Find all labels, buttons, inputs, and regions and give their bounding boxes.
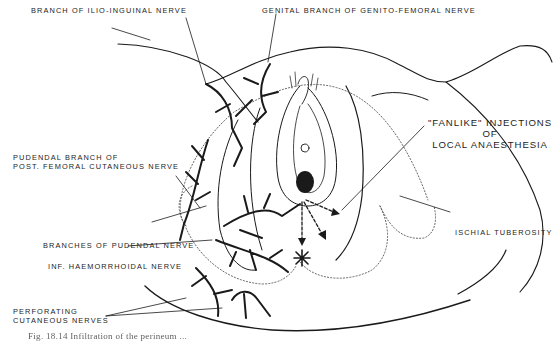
label-fanlike-injections-line1: "FANLIKE" INJECTIONS (422, 117, 558, 128)
perianal-injection-star (294, 250, 310, 266)
figure-caption: Fig. 18.14 Infiltration of the perineum … (28, 331, 187, 341)
label-branches-pudendal-nerve: BRANCHES OF PUDENDAL NERVE (43, 242, 194, 251)
label-inf-haemorrhoidal-nerve: INF. HAEMORRHOIDAL NERVE (48, 263, 182, 272)
label-fanlike-injections-line2: OF (422, 128, 558, 139)
perforating-cutaneous (192, 268, 270, 318)
perineal-nerve-illustration: BRANCH OF ILIO-INGUINAL NERVE GENITAL BR… (0, 0, 558, 342)
genital-genitofemoral-branch (244, 64, 278, 124)
perineal-body-dotted (300, 206, 388, 278)
right-thigh-outline (446, 82, 543, 292)
label-ischial-tuberosity: ISCHIAL TUBEROSITY (455, 229, 552, 238)
label-perforating-line2: CUTANEOUS NERVES (13, 317, 109, 326)
label-fanlike-injections-line3: LOCAL ANAESTHESIA (422, 139, 558, 150)
right-labial-fold (336, 86, 363, 260)
urethral-meatus (301, 144, 309, 152)
post-femoral-cutaneous (180, 140, 210, 240)
ischial-tuberosity-right-dotted (380, 206, 436, 238)
lower-buttock-curve (145, 286, 470, 331)
label-pudendal-branch-line2: POST. FEMORAL CUTANEOUS NERVE (13, 163, 179, 172)
upper-contour-right (206, 46, 552, 84)
left-inner-fold (251, 108, 263, 250)
pudendal-branches (224, 194, 300, 238)
pubic-arch-dotted (180, 84, 428, 226)
clitoral-hood (298, 77, 309, 104)
vaginal-introitus (296, 171, 314, 193)
label-ilio-inguinal-nerve: BRANCH OF ILIO-INGUINAL NERVE (31, 7, 187, 16)
inf-haemorrhoidal (216, 240, 288, 272)
arrow-heads (298, 208, 340, 246)
right-fold-cross (372, 93, 428, 100)
ilio-inguinal-branch (206, 84, 252, 166)
pubic-hair-strokes (290, 72, 318, 90)
label-genito-femoral-nerve: GENITAL BRANCH OF GENITO-FEMORAL NERVE (262, 7, 476, 16)
right-buttock-inner (458, 250, 506, 294)
